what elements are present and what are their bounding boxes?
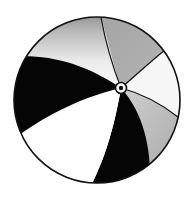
valve-hub-icon bbox=[116, 83, 127, 94]
beach-ball-graphic bbox=[0, 0, 195, 197]
beach-ball-illustration: Beach ball bbox=[0, 0, 195, 197]
